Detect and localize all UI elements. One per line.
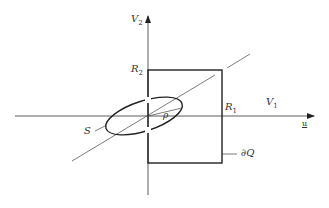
s-leader — [95, 126, 105, 131]
diagonal-line-ext — [227, 54, 250, 68]
region-q-boundary — [148, 70, 222, 163]
diagonal-line — [72, 75, 215, 161]
label-dq: ∂Q — [241, 148, 254, 158]
label-rho: ρ — [163, 111, 168, 120]
label-v1: V1 — [266, 97, 278, 110]
label-r1-base: R — [225, 101, 233, 112]
label-r2: R2 — [131, 64, 143, 77]
label-v2-sub: 2 — [138, 19, 142, 27]
label-r1: R1 — [225, 102, 237, 115]
label-s: S — [84, 126, 91, 136]
label-v2: V2 — [131, 14, 143, 27]
diagram-canvas — [0, 0, 329, 208]
label-r2-sub: 2 — [139, 69, 143, 77]
label-v1-sub: 1 — [273, 102, 277, 110]
label-r2-base: R — [131, 63, 139, 74]
label-r1-sub: 1 — [233, 107, 237, 115]
label-u: u — [302, 120, 307, 128]
